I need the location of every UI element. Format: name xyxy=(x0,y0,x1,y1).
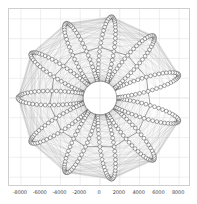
x-axis-tick-labels: -8000-6000-4000-200002000400060008000 xyxy=(8,188,190,200)
x-tick-label: -8000 xyxy=(13,188,27,196)
x-tick-label: 8000 xyxy=(172,188,184,196)
orbit-plot-svg xyxy=(9,9,190,186)
x-tick-label: -4000 xyxy=(52,188,66,196)
x-tick-label: 4000 xyxy=(132,188,144,196)
x-tick-label: 0 xyxy=(97,188,100,196)
plot-axes xyxy=(8,8,190,186)
x-tick-label: 6000 xyxy=(152,188,164,196)
x-tick-label: -2000 xyxy=(72,188,86,196)
x-tick-label: 2000 xyxy=(113,188,125,196)
x-tick-label: -6000 xyxy=(33,188,47,196)
figure-canvas: -8000-6000-4000-200002000400060008000 xyxy=(0,0,197,204)
